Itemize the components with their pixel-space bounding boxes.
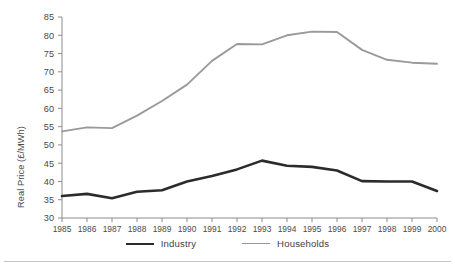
x-tick-label: 1998 <box>378 224 397 234</box>
y-tick-label: 35 <box>44 195 54 205</box>
x-tick-label: 1995 <box>303 224 322 234</box>
y-tick-label: 45 <box>44 159 54 169</box>
plot-area: 303540455055606570758085 198519861987198… <box>0 0 455 270</box>
x-tick-label: 2000 <box>428 224 447 234</box>
x-tick-label: 1992 <box>228 224 247 234</box>
series-line-industry <box>62 161 437 199</box>
footer-divider <box>4 261 451 262</box>
y-tick-label: 70 <box>44 67 54 77</box>
x-tick-label: 1988 <box>128 224 147 234</box>
y-tick-label: 85 <box>44 12 54 22</box>
legend-item-households[interactable]: Households <box>242 238 329 249</box>
y-tick-label: 55 <box>44 122 54 132</box>
legend-item-industry[interactable]: Industry <box>126 238 196 249</box>
y-tick-label: 75 <box>44 49 54 59</box>
y-tick-label: 40 <box>44 177 54 187</box>
legend-line-icon-industry <box>126 243 154 245</box>
x-tick-label: 1999 <box>403 224 422 234</box>
y-axis-ticks: 303540455055606570758085 <box>44 12 62 223</box>
x-tick-label: 1985 <box>53 224 72 234</box>
legend-line-icon-households <box>242 243 270 244</box>
x-tick-label: 1991 <box>203 224 222 234</box>
x-tick-label: 1993 <box>253 224 272 234</box>
legend-label-industry: Industry <box>161 238 196 249</box>
chart-figure: Real Price (£/MWh) 303540455055606570758… <box>0 0 455 270</box>
x-tick-label: 1987 <box>103 224 122 234</box>
chart-legend: Industry Households <box>0 238 455 249</box>
x-tick-label: 1996 <box>328 224 347 234</box>
x-tick-label: 1994 <box>278 224 297 234</box>
x-tick-label: 1989 <box>153 224 172 234</box>
x-tick-label: 1990 <box>178 224 197 234</box>
x-tick-label: 1997 <box>353 224 372 234</box>
data-series-group <box>62 32 437 199</box>
y-tick-label: 65 <box>44 85 54 95</box>
x-axis-ticks: 1985198619871988198919901991199219931994… <box>53 218 447 234</box>
series-line-households <box>62 32 437 132</box>
legend-label-households: Households <box>277 238 329 249</box>
y-tick-label: 60 <box>44 104 54 114</box>
y-tick-label: 30 <box>44 213 54 223</box>
x-tick-label: 1986 <box>78 224 97 234</box>
y-tick-label: 80 <box>44 31 54 41</box>
y-tick-label: 50 <box>44 140 54 150</box>
